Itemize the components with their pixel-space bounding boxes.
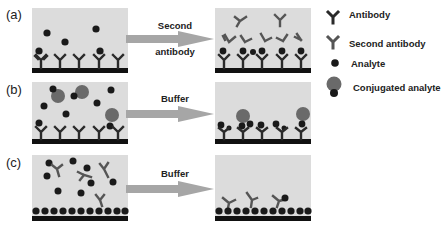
row-label-b: (b) [6,82,22,97]
antibody-icon [326,10,340,24]
arrow-b [126,106,214,122]
second-antibody-icon [326,35,340,49]
legend-label-antibody: Antibody [349,9,390,20]
legend-label-analyte: Analyte [351,58,385,69]
row-label-a: (a) [6,7,22,22]
row-label-c: (c) [6,155,21,170]
legend-label-conjugated-analyte: Conjugated analyte [353,82,441,93]
arrow-c-label: Buffer [140,168,210,179]
legend-label-second-antibody: Second antibody [349,38,426,49]
panel-c-before-contents [32,155,128,221]
panel-c-after-contents [215,155,311,221]
conjugated-analyte-icon [326,76,346,100]
arrow-a-label-line1: Second [140,20,210,31]
panel-a-after-contents [215,8,311,73]
analyte-icon [330,58,340,68]
panel-b-after-contents [215,82,311,144]
arrow-c [126,181,214,197]
arrow-a-label-line2: antibody [140,46,210,57]
panel-b-before-contents [32,82,128,144]
arrow-a [126,31,214,47]
arrow-b-label: Buffer [140,93,210,104]
panel-a-before-contents [32,8,128,73]
